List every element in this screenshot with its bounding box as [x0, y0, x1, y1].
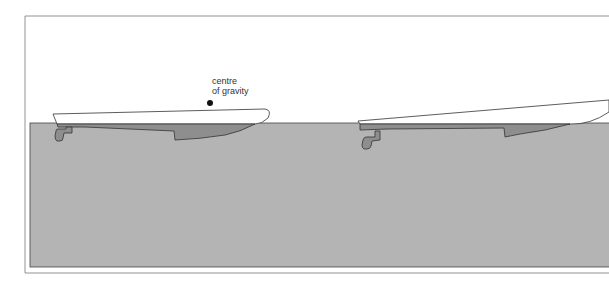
boat-diagram: [0, 0, 609, 289]
water-area: [30, 123, 609, 267]
hull-above-water: [53, 109, 269, 124]
centre-of-gravity-dot: [207, 100, 213, 106]
hull-above-water: [358, 100, 609, 124]
cog-label: centre of gravity: [212, 76, 249, 96]
cog-label-line1: centre: [212, 76, 249, 86]
cog-label-line2: of gravity: [212, 86, 249, 96]
